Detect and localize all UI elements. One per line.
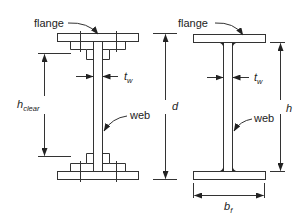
left-web-label: web xyxy=(129,109,150,121)
right-flange-leader-arrow xyxy=(215,23,243,35)
left-bottom-flange-plate xyxy=(58,172,139,180)
right-d-label: d xyxy=(172,100,179,112)
left-top-angle-right xyxy=(103,42,126,60)
left-tw-label: tw xyxy=(124,70,133,85)
right-web-label: web xyxy=(253,112,274,124)
right-bf-label: bf xyxy=(224,200,233,215)
left-web-leader-arrow xyxy=(104,116,127,131)
right-rolled-beam: flange tw d h web bf xyxy=(153,17,292,215)
right-bottom-fillet-left xyxy=(220,166,224,171)
left-bottom-angle-left xyxy=(71,154,94,172)
left-built-up-girder: flange tw hclear web xyxy=(17,17,150,182)
left-bottom-angle-right xyxy=(103,154,126,172)
right-bottom-fillet-right xyxy=(233,166,237,171)
right-top-flange xyxy=(194,35,266,43)
left-flange-label: flange xyxy=(34,17,64,29)
right-web-leader-arrow xyxy=(234,119,252,131)
left-flange-leader-arrow xyxy=(68,23,98,34)
right-h-label: h xyxy=(286,102,292,114)
right-bottom-flange xyxy=(194,172,266,180)
right-top-fillet-right xyxy=(233,43,237,48)
left-top-flange-plate xyxy=(58,34,139,42)
left-hclear-label: hclear xyxy=(17,98,40,113)
right-top-fillet-left xyxy=(220,43,224,48)
right-flange-label: flange xyxy=(178,17,208,29)
right-tw-label: tw xyxy=(254,71,263,86)
beam-sections-diagram: flange tw hclear web flange xyxy=(0,0,305,219)
left-top-angle-left xyxy=(71,42,94,60)
